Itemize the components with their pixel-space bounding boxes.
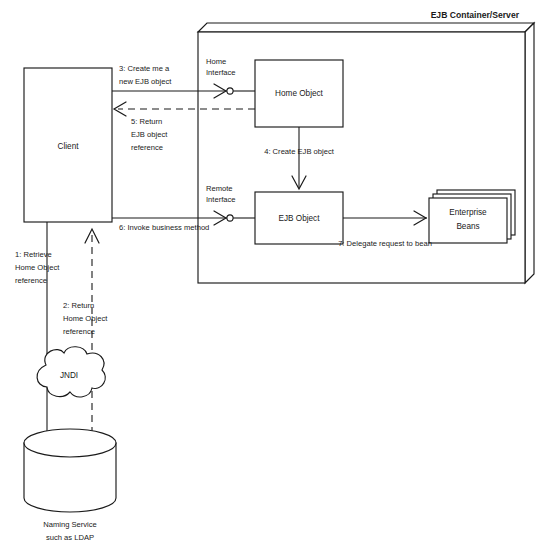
ejb-architecture-diagram: EJB Container/Server Client Home Object … bbox=[0, 0, 550, 556]
step-2-label-line1: 2: Return bbox=[63, 301, 94, 310]
ejb-object-label: EJB Object bbox=[279, 214, 321, 223]
home-object-label: Home Object bbox=[275, 89, 324, 98]
step-5-label-line1: 5: Return bbox=[131, 117, 162, 126]
naming-service-label-line2: such as LDAP bbox=[46, 533, 94, 542]
home-interface-label-line1: Home bbox=[206, 57, 226, 66]
step-1-label-line3: reference bbox=[15, 276, 47, 285]
step-3-label-line1: 3: Create me a bbox=[119, 64, 170, 73]
step-2-label-line2: Home Object bbox=[63, 314, 108, 323]
naming-service-cylinder bbox=[24, 429, 116, 512]
remote-interface-label-line1: Remote bbox=[206, 184, 233, 193]
step-6-label-line1: 6: Invoke business method bbox=[119, 223, 209, 232]
step-3-label-line2: new EJB object bbox=[119, 77, 172, 86]
container-right-face bbox=[525, 23, 534, 283]
home-interface-lollipop-icon bbox=[227, 88, 233, 94]
step-5-label-line2: EJB object bbox=[131, 130, 168, 139]
cylinder-top-ellipse bbox=[24, 429, 116, 457]
diagram-canvas: EJB Container/Server Client Home Object … bbox=[0, 0, 550, 556]
enterprise-beans-label-line2: Beans bbox=[456, 222, 479, 231]
step-4-label-line1: 4: Create EJB object bbox=[264, 147, 335, 156]
jndi-label: JNDI bbox=[60, 371, 78, 380]
step-7-label-line1: 7: Delegate request to bean bbox=[338, 239, 432, 248]
enterprise-beans-box-front bbox=[429, 198, 507, 243]
step-5-label-line3: reference bbox=[131, 143, 163, 152]
step-2-label-line3: reference bbox=[63, 327, 95, 336]
flow-step-2 bbox=[85, 229, 99, 446]
home-interface-label-line2: Interface bbox=[206, 68, 236, 77]
remote-interface-lollipop-icon bbox=[227, 215, 233, 221]
naming-service-label-line1: Naming Service bbox=[43, 520, 97, 529]
remote-interface-label-line2: Interface bbox=[206, 195, 236, 204]
container-title: EJB Container/Server bbox=[431, 10, 520, 20]
container-top-face bbox=[198, 23, 534, 32]
enterprise-beans-label-line1: Enterprise bbox=[449, 208, 487, 217]
client-label: Client bbox=[58, 142, 80, 151]
step-1-label-line2: Home Object bbox=[15, 263, 60, 272]
step-1-label-line1: 1: Retrieve bbox=[15, 250, 52, 259]
